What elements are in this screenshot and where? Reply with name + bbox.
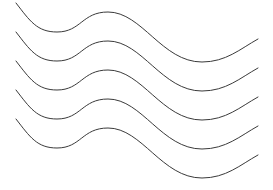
wave-line-5 xyxy=(16,119,258,178)
wavy-lines-graphic xyxy=(0,0,273,190)
wave-figure xyxy=(0,0,273,190)
